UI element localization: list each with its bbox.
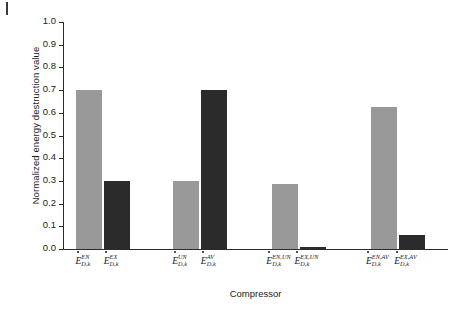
symbol-superscript: EX [110, 253, 118, 260]
bar-en-un [272, 184, 298, 249]
y-tick-label: 0.7 [43, 83, 56, 94]
bar-ex-un [300, 247, 326, 249]
rate-dot-icon [202, 251, 204, 253]
y-tick-label: 0.2 [43, 197, 56, 208]
page-edge-mark [6, 2, 8, 15]
symbol-subscript: D,k [372, 260, 381, 267]
x-axis-category-labels: EEND,kEEXD,kEUND,kEAVD,kEEN,UND,kEEX,UND… [63, 251, 448, 285]
rate-dot-icon [174, 251, 176, 253]
y-tick-label: 0.4 [43, 151, 56, 162]
y-tick-0.3: 0.3 [0, 181, 63, 182]
symbol-subscript: D,k [400, 260, 409, 267]
x-axis-title: Compressor [63, 288, 448, 299]
x-label-ex-av: EEX,AVD,k [386, 254, 438, 266]
symbol-subscript: D,k [110, 260, 119, 267]
rate-dot-icon [77, 251, 79, 253]
symbol-superscript: EX,UN [300, 253, 318, 260]
symbol-subscript: D,k [207, 260, 216, 267]
plot-area [63, 22, 448, 249]
y-tick-0.7: 0.7 [0, 90, 63, 91]
bar-av [201, 90, 227, 249]
y-tick-label: 0.5 [43, 129, 56, 140]
rate-dot-icon [268, 251, 270, 253]
symbol-subscript: D,k [272, 260, 281, 267]
bar-en-av [371, 107, 397, 249]
bar-un [173, 181, 199, 249]
y-tick-0.9: 0.9 [0, 45, 63, 46]
rate-dot-icon [296, 251, 298, 253]
bar-ex-av [399, 235, 425, 249]
symbol-subscript: D,k [300, 260, 309, 267]
y-tick-label: 1.0 [43, 15, 56, 26]
y-tick-0.8: 0.8 [0, 67, 63, 68]
y-tick-label: 0.6 [43, 106, 56, 117]
x-label-ex: EEXD,k [91, 254, 143, 266]
symbol-superscript: AV [207, 253, 214, 260]
symbol-superscript: UN [178, 253, 187, 260]
y-tick-mark [59, 249, 63, 250]
y-tick-label: 0.1 [43, 219, 56, 230]
x-label-av: EAVD,k [188, 254, 240, 266]
y-tick-0.4: 0.4 [0, 158, 63, 159]
y-tick-label: 0.3 [43, 174, 56, 185]
symbol-subscript: D,k [178, 260, 187, 267]
y-axis-title: Normalized energy destruction value [30, 16, 41, 236]
x-axis-line [63, 249, 448, 250]
y-tick-label: 0.9 [43, 38, 56, 49]
y-tick-label: 0.8 [43, 60, 56, 71]
rate-dot-icon [367, 251, 369, 253]
y-tick-0.1: 0.1 [0, 226, 63, 227]
bar-ex [104, 181, 130, 249]
y-tick-1.0: 1.0 [0, 22, 63, 23]
symbol-superscript: EN [81, 253, 89, 260]
symbol-superscript: EX,AV [400, 253, 417, 260]
y-tick-0.6: 0.6 [0, 113, 63, 114]
y-tick-label: 0.0 [43, 242, 56, 253]
rate-dot-icon [396, 251, 398, 253]
x-label-ex-un: EEX,UND,k [287, 254, 339, 266]
bar-chart-figure: Normalized energy destruction value 0.00… [0, 0, 461, 311]
y-tick-0.0: 0.0 [0, 249, 63, 250]
rate-dot-icon [105, 251, 107, 253]
symbol-subscript: D,k [81, 260, 90, 267]
bar-en [76, 90, 102, 249]
y-tick-0.2: 0.2 [0, 204, 63, 205]
y-tick-0.5: 0.5 [0, 136, 63, 137]
